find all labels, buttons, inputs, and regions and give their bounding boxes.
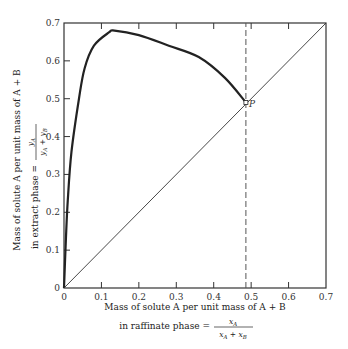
y-tick-label: 0: [54, 283, 60, 293]
x-axis-title-line1: Mass of solute A per unit mass of A + B: [104, 302, 286, 312]
x-tick-label: 0.4: [207, 292, 222, 302]
x-tick-label: 0.6: [281, 292, 296, 302]
equilibrium-curve: [64, 30, 246, 288]
plait-point-label: P: [248, 99, 256, 109]
x-fraction-numerator: xA: [229, 317, 237, 327]
y-fraction-denominator: yA + yB: [38, 128, 48, 157]
x-tick-label: 0: [61, 292, 67, 302]
series-layer: [64, 23, 326, 288]
x-axis-ticks: 00.10.20.30.40.50.60.7: [61, 23, 333, 302]
x-axis-title-line2: in raffinate phase =: [119, 321, 210, 331]
y-tick-label: 0.4: [46, 132, 61, 142]
y-tick-label: 0.7: [46, 18, 61, 28]
x-tick-label: 0.3: [169, 292, 184, 302]
x-tick-label: 0.2: [132, 292, 146, 302]
y-axis-title-line2: in extract phase =: [30, 165, 40, 249]
x-tick-label: 0.7: [319, 292, 334, 302]
chart: 00.10.20.30.40.50.60.7 00.10.20.30.40.50…: [0, 0, 348, 349]
y-tick-label: 0.1: [46, 245, 60, 255]
y-tick-label: 0.3: [46, 169, 61, 179]
x-tick-label: 0.1: [94, 292, 108, 302]
diagonal-line: [64, 23, 326, 288]
y-tick-label: 0.2: [46, 207, 60, 217]
plait-point-marker: [244, 101, 248, 105]
y-fraction-numerator: yA: [26, 138, 36, 147]
y-axis-title: Mass of solute A per unit mass of A + B …: [12, 69, 48, 251]
x-axis-title: Mass of solute A per unit mass of A + B …: [104, 302, 286, 340]
y-tick-label: 0.6: [46, 56, 61, 66]
y-tick-label: 0.5: [46, 94, 61, 104]
y-axis-title-line1: Mass of solute A per unit mass of A + B: [12, 69, 22, 251]
x-fraction-denominator: xA + xB: [219, 330, 247, 340]
x-tick-label: 0.5: [244, 292, 259, 302]
